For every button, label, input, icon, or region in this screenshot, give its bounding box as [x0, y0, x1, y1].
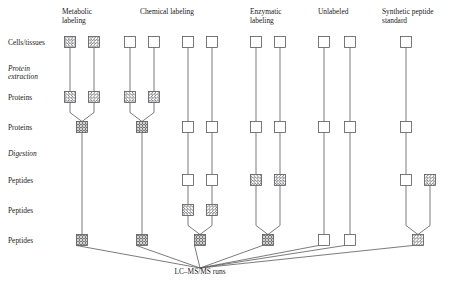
sample-node: [183, 205, 194, 216]
flow-edge: [82, 103, 94, 122]
sample-node: [125, 92, 136, 103]
sample-node: [207, 205, 218, 216]
column-header: Chemical labeling: [140, 7, 194, 16]
sample-node: [275, 175, 286, 186]
row-label: Proteins: [8, 93, 32, 102]
node-box-plain: [345, 37, 356, 48]
sample-node: [65, 92, 76, 103]
node-box-backward: [425, 175, 436, 186]
node-box-forward: [65, 37, 76, 48]
node-box-cross: [77, 122, 88, 133]
node-layer: [65, 37, 436, 246]
node-box-plain: [345, 235, 356, 246]
node-box-plain: [207, 175, 218, 186]
sample-node: [137, 122, 148, 133]
node-box-forward: [251, 175, 262, 186]
sample-node: [89, 92, 100, 103]
node-box-backward: [149, 92, 160, 103]
node-box-backward: [207, 205, 218, 216]
node-box-plain: [183, 37, 194, 48]
node-box-plain: [251, 37, 262, 48]
node-box-cross: [77, 235, 88, 246]
sample-node: [65, 37, 76, 48]
row-label: extraction: [8, 72, 38, 81]
converge-edge: [195, 246, 201, 269]
node-box-backward: [89, 37, 100, 48]
converge-layer: [77, 246, 413, 269]
column-header: labeling: [250, 16, 274, 25]
sample-node: [275, 122, 286, 133]
edge-layer: [70, 48, 430, 235]
sample-node: [183, 37, 194, 48]
sample-node: [251, 122, 262, 133]
node-box-forward: [65, 92, 76, 103]
row-label: Peptides: [8, 236, 33, 245]
converge-edge: [77, 246, 201, 269]
sample-node: [125, 37, 136, 48]
figure-canvas: Cells/tissuesProteinextractionProteinsPr…: [0, 0, 452, 285]
column-header: labeling: [62, 16, 86, 25]
sample-node: [89, 37, 100, 48]
node-box-plain: [401, 122, 412, 133]
sample-node: [263, 235, 274, 246]
sample-node: [251, 175, 262, 186]
node-box-cross: [195, 235, 206, 246]
sample-node: [401, 175, 412, 186]
sample-node: [319, 122, 330, 133]
sample-node: [195, 235, 206, 246]
sample-node: [275, 37, 286, 48]
sample-node: [425, 175, 436, 186]
sample-node: [207, 37, 218, 48]
sample-node: [413, 235, 424, 246]
column-header: Metabolic: [62, 7, 93, 16]
node-box-backward: [413, 235, 424, 246]
sample-node: [345, 122, 356, 133]
row-label: Cells/tissues: [8, 38, 45, 47]
node-box-plain: [275, 122, 286, 133]
row-label: Peptides: [8, 176, 33, 185]
node-box-plain: [401, 37, 412, 48]
sample-node: [207, 175, 218, 186]
node-box-forward: [125, 92, 136, 103]
node-box-plain: [401, 175, 412, 186]
node-box-plain: [251, 122, 262, 133]
node-box-plain: [345, 122, 356, 133]
node-box-plain: [207, 37, 218, 48]
flow-edge: [188, 216, 200, 235]
sample-node: [345, 235, 356, 246]
node-box-backward: [89, 92, 100, 103]
node-box-plain: [183, 175, 194, 186]
column-header: standard: [382, 16, 407, 25]
sample-node: [319, 235, 330, 246]
sample-node: [251, 37, 262, 48]
row-label: Peptides: [8, 206, 33, 215]
workflow-diagram: Cells/tissuesProteinextractionProteinsPr…: [0, 0, 452, 285]
flow-edge: [130, 103, 142, 122]
node-box-backward: [275, 175, 286, 186]
column-header: Unlabeled: [318, 7, 349, 16]
node-box-plain: [275, 37, 286, 48]
sample-node: [319, 37, 330, 48]
flow-edge: [268, 186, 280, 235]
node-box-forward: [183, 205, 194, 216]
row-label: Digestion: [7, 149, 37, 158]
node-box-plain: [319, 235, 330, 246]
converge-edge: [137, 246, 201, 269]
sample-node: [401, 37, 412, 48]
node-box-plain: [319, 37, 330, 48]
sample-node: [401, 122, 412, 133]
sample-node: [207, 122, 218, 133]
node-box-plain: [319, 122, 330, 133]
node-box-plain: [183, 122, 194, 133]
row-label: Proteins: [8, 123, 32, 132]
flow-edge: [200, 216, 212, 235]
flow-edge: [70, 103, 82, 122]
node-box-plain: [149, 37, 160, 48]
node-box-plain: [125, 37, 136, 48]
node-box-cross: [137, 122, 148, 133]
sample-node: [149, 37, 160, 48]
sample-node: [77, 235, 88, 246]
sample-node: [345, 37, 356, 48]
flow-edge: [142, 103, 154, 122]
converge-edge: [200, 246, 319, 269]
